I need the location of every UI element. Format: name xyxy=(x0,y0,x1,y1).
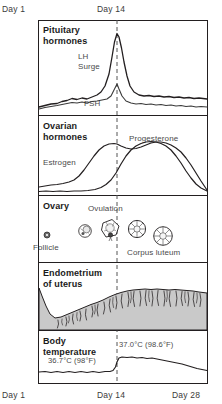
primordial-follicle-icon xyxy=(44,232,50,238)
diagram-canvas xyxy=(0,0,222,404)
estrogen-curve xyxy=(39,142,207,190)
panel-frame-ovary xyxy=(39,196,208,263)
fsh-curve xyxy=(39,84,207,109)
early-corpus-luteum-icon xyxy=(128,220,145,237)
menstrual-cycle-figure: Day 1 Day 14 Day 1 Day 14 Day 28 Pituita… xyxy=(0,0,222,404)
ovarian-curves xyxy=(39,142,207,192)
ovary-stages xyxy=(44,220,172,246)
progesterone-curve xyxy=(39,142,207,192)
mature-corpus-luteum-icon xyxy=(154,227,173,246)
ruptured-follicle-icon xyxy=(102,220,120,242)
growing-follicle-icon xyxy=(79,225,92,238)
endometrium-fill xyxy=(39,288,207,330)
temperature-curve-group xyxy=(39,357,207,373)
pituitary-curves xyxy=(39,34,207,110)
body-temperature-curve xyxy=(39,357,207,373)
lh-curve xyxy=(39,34,207,108)
endometrium-graphic xyxy=(39,288,207,330)
